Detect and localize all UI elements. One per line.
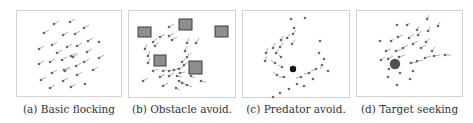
boid [144, 44, 147, 50]
boid [53, 21, 59, 25]
obstacle [154, 55, 166, 66]
boid [272, 43, 275, 49]
boid [327, 70, 330, 73]
panel-target-seeking [356, 10, 463, 97]
boid [396, 84, 399, 87]
boid [176, 75, 182, 78]
boid [278, 65, 283, 68]
boid [98, 55, 104, 59]
obstacle [189, 61, 202, 74]
caption-basic-flocking: (a) Basic flocking [6, 103, 132, 115]
boid [279, 76, 285, 79]
boid [49, 59, 55, 63]
boid [293, 27, 296, 30]
boid [427, 27, 430, 32]
panel-basic-flocking [16, 10, 122, 97]
boid [379, 40, 382, 43]
boid [425, 38, 430, 43]
boid [92, 67, 98, 71]
boid [387, 76, 390, 79]
boid [40, 77, 46, 81]
boid [311, 68, 317, 71]
boid [70, 84, 76, 88]
boid [323, 58, 326, 61]
boid [62, 32, 68, 36]
boid [171, 37, 177, 41]
boid [380, 57, 385, 61]
boid [152, 69, 158, 72]
boid [190, 75, 195, 78]
boid [290, 18, 293, 21]
boid [296, 76, 302, 79]
boid [168, 73, 174, 77]
boid [38, 46, 44, 50]
boid [272, 96, 275, 99]
obstacle [215, 26, 228, 37]
boid [275, 49, 279, 54]
boid [76, 43, 82, 47]
boid [49, 85, 55, 89]
boid [398, 55, 405, 58]
boid [87, 38, 93, 42]
boid [43, 30, 49, 34]
caption-obstacle-avoidance: (b) Obstacle avoid. [118, 103, 246, 115]
boid [83, 25, 89, 29]
boid [75, 63, 81, 67]
boid [147, 51, 150, 57]
flock-canvas-basic-flocking [17, 11, 123, 98]
boid [402, 45, 408, 49]
predator-dot [290, 66, 296, 72]
boid [152, 38, 157, 43]
boid [162, 83, 168, 87]
boid [319, 40, 322, 43]
obstacle [179, 19, 192, 30]
boid [312, 78, 315, 81]
boid [280, 36, 284, 41]
boid [178, 66, 184, 70]
boid [279, 43, 283, 48]
boid [424, 56, 431, 59]
boid [399, 72, 402, 75]
flock-canvas-predator-avoidance [243, 11, 351, 99]
boid [409, 78, 412, 81]
boid [387, 56, 393, 60]
boid [186, 38, 189, 44]
boid [437, 22, 440, 27]
boid [410, 62, 418, 65]
boid [147, 58, 150, 64]
boid [286, 34, 290, 39]
boid [416, 26, 419, 31]
boid [318, 52, 321, 55]
boid [200, 80, 206, 83]
boid [51, 70, 57, 74]
boid [66, 44, 72, 48]
boid [98, 41, 101, 44]
boid [406, 23, 410, 26]
boid [154, 42, 158, 47]
boid [181, 58, 186, 63]
boid [388, 68, 391, 71]
boid [159, 74, 165, 78]
boid [396, 24, 399, 27]
boid [408, 34, 414, 39]
boid [86, 49, 92, 53]
boid [162, 70, 167, 73]
boid [265, 48, 268, 54]
panel-predator-avoidance [242, 10, 350, 98]
boid [38, 61, 44, 65]
boid [84, 83, 87, 86]
boid [168, 24, 174, 28]
panel-obstacle-avoidance [128, 10, 236, 98]
boid [385, 49, 391, 52]
flock-canvas-target-seeking [357, 11, 464, 98]
boid [74, 31, 80, 35]
boid [431, 47, 435, 52]
boid [417, 31, 421, 36]
boid [61, 57, 67, 61]
boid [51, 42, 57, 46]
obstacle [138, 27, 151, 37]
boid [279, 92, 282, 95]
boid [195, 38, 199, 44]
boid [397, 35, 403, 38]
boid [168, 33, 174, 37]
